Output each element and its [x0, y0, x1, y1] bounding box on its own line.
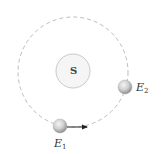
earth-e2-sphere	[118, 80, 132, 94]
orbit-diagram	[0, 0, 161, 154]
e1-label: E1	[54, 138, 67, 151]
sun-label: S	[70, 66, 77, 76]
e2-label: E2	[136, 82, 149, 95]
earth-e1-sphere	[53, 119, 67, 133]
